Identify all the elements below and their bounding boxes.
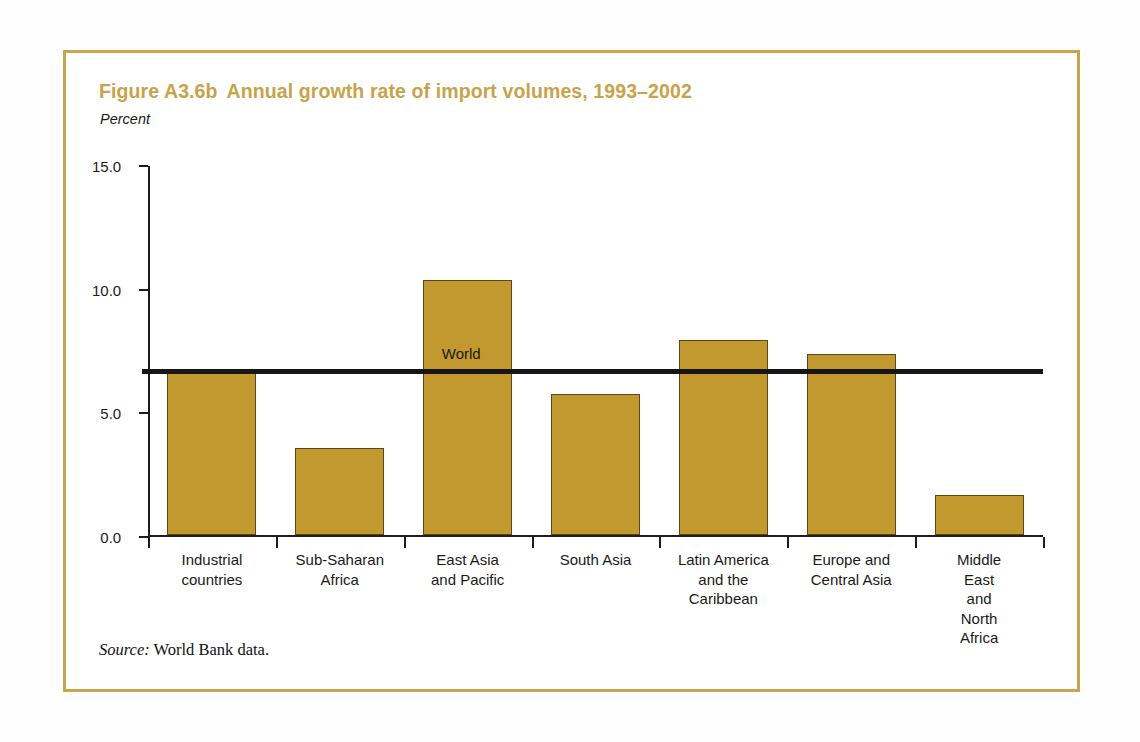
- y-axis-unit-label: Percent: [100, 111, 150, 127]
- figure-frame: Figure A3.6bAnnual growth rate of import…: [63, 50, 1080, 692]
- x-tick: [1043, 537, 1045, 548]
- source-note: Source: World Bank data.: [99, 640, 269, 660]
- y-tick-label: 0.0: [100, 529, 121, 546]
- x-category-label: Sub-Saharan Africa: [296, 550, 384, 589]
- chart-plot-area: 0.05.010.015.0 World Industrial countrie…: [148, 166, 1043, 537]
- y-tick: [139, 165, 148, 167]
- x-category-label: Middle East and North Africa: [947, 550, 1011, 648]
- y-tick: [139, 412, 148, 414]
- y-tick-label: 10.0: [92, 281, 121, 298]
- x-category-label: East Asia and Pacific: [431, 550, 504, 589]
- y-tick-label: 5.0: [100, 405, 121, 422]
- bar: [167, 372, 256, 535]
- x-tick: [787, 537, 789, 548]
- bar: [423, 280, 512, 535]
- x-category-label: Latin America and the Caribbean: [678, 550, 769, 609]
- source-label: Source:: [99, 640, 150, 659]
- page-title: Figure A3.6bAnnual growth rate of import…: [99, 80, 692, 103]
- x-tick: [915, 537, 917, 548]
- x-category-label: South Asia: [560, 550, 632, 570]
- world-reference-line: [142, 369, 1043, 374]
- x-tick: [532, 537, 534, 548]
- x-tick: [404, 537, 406, 548]
- x-tick: [148, 537, 150, 548]
- y-axis-line: [148, 166, 150, 537]
- x-category-label: Industrial countries: [181, 550, 242, 589]
- figure-title-text: Annual growth rate of import volumes, 19…: [227, 80, 692, 102]
- source-text: World Bank data.: [154, 640, 270, 659]
- x-tick: [659, 537, 661, 548]
- bar: [935, 495, 1024, 535]
- figure-page: Figure A3.6bAnnual growth rate of import…: [0, 0, 1140, 742]
- bar: [295, 448, 384, 535]
- x-axis-line: [148, 535, 1043, 537]
- y-tick: [139, 289, 148, 291]
- y-tick: [139, 536, 148, 538]
- x-category-label: Europe and Central Asia: [811, 550, 892, 589]
- y-tick-label: 15.0: [92, 158, 121, 175]
- figure-number: Figure A3.6b: [99, 80, 218, 102]
- bar: [807, 354, 896, 535]
- bar: [551, 394, 640, 535]
- world-reference-label: World: [442, 345, 481, 362]
- x-tick: [276, 537, 278, 548]
